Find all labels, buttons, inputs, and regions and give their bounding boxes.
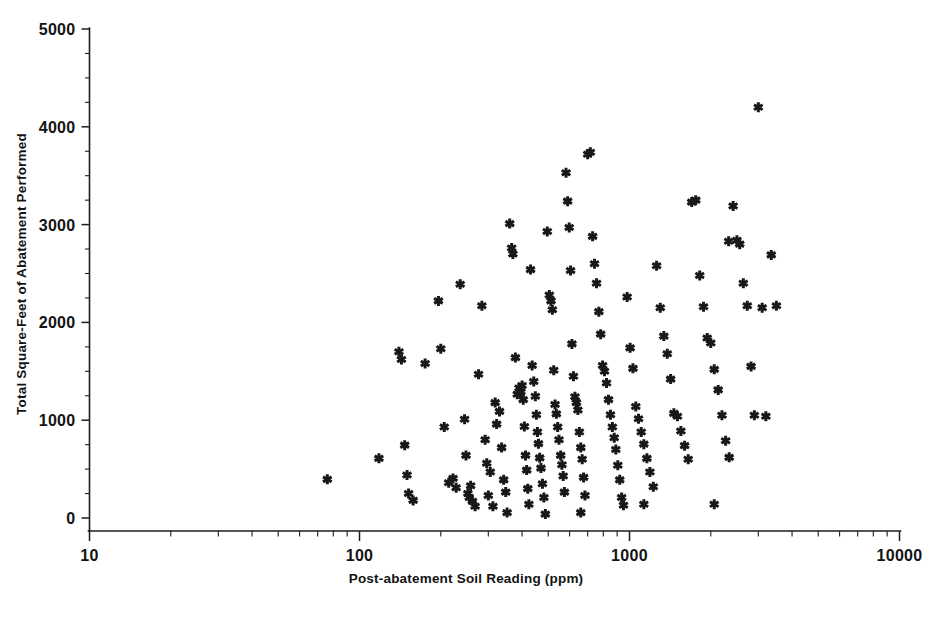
scatter-point <box>532 410 541 420</box>
scatter-point <box>710 364 719 374</box>
y-tick-label: 0 <box>66 510 75 527</box>
scatter-point <box>456 279 465 289</box>
scatter-point <box>563 196 572 206</box>
scatter-point <box>481 435 490 445</box>
scatter-point <box>540 492 549 502</box>
scatter-point <box>552 409 561 419</box>
scatter-point <box>729 201 738 211</box>
scatter-point <box>436 344 445 354</box>
scatter-point <box>499 475 508 485</box>
scatter-point <box>743 301 752 311</box>
scatter-point <box>739 278 748 288</box>
scatter-point <box>576 443 585 453</box>
scatter-point <box>718 410 727 420</box>
scatter-point <box>684 454 693 464</box>
scatter-point <box>566 266 575 276</box>
x-axis-title: Post-abatement Soil Reading (ppm) <box>349 571 584 586</box>
scatter-point <box>767 250 776 260</box>
scatter-point <box>404 489 413 499</box>
scatter-point <box>440 422 449 432</box>
x-tick-label: 100 <box>346 547 374 564</box>
scatter-point <box>486 467 495 477</box>
scatter-point <box>421 358 430 368</box>
scatter-point <box>535 453 544 463</box>
scatter-point <box>656 303 665 313</box>
scatter-point <box>631 402 640 412</box>
scatter-point <box>523 484 532 494</box>
scatter-point <box>721 436 730 446</box>
scatter-point <box>533 427 542 437</box>
scatter-point <box>495 406 504 416</box>
scatter-point <box>534 439 543 449</box>
scatter-point <box>569 371 578 381</box>
scatter-point <box>613 460 622 470</box>
scatter-point <box>615 475 624 485</box>
scatter-point <box>474 369 483 379</box>
scatter-point <box>548 305 557 315</box>
scatter-point <box>725 452 734 462</box>
scatter-point <box>659 331 668 341</box>
scatter-point <box>520 422 529 432</box>
scatter-point <box>492 419 501 429</box>
scatter-point <box>528 360 537 370</box>
scatter-point <box>525 499 534 509</box>
scatter-point <box>543 226 552 236</box>
scatter-point <box>503 508 512 518</box>
scatter-point <box>762 411 771 421</box>
scatter-point <box>581 491 590 501</box>
x-tick-label: 10 <box>80 547 98 564</box>
scatter-point <box>640 439 649 449</box>
scatter-point <box>576 508 585 518</box>
scatter-point <box>610 433 619 443</box>
scatter-point <box>409 495 418 505</box>
scatter-point <box>677 426 686 436</box>
scatter-point <box>526 265 535 275</box>
scatter-point <box>323 474 332 484</box>
scatter-point <box>596 329 605 339</box>
x-tick-label: 10000 <box>877 547 923 564</box>
scatter-point <box>558 460 567 470</box>
scatter-point <box>553 422 562 432</box>
scatter-point <box>555 435 564 445</box>
scatter-point <box>501 487 510 497</box>
scatter-point <box>637 427 646 437</box>
scatter-point <box>478 301 487 311</box>
scatter-point <box>434 296 443 306</box>
scatter-point <box>489 501 498 511</box>
y-tick-label: 1000 <box>39 412 76 429</box>
scatter-point <box>400 440 409 450</box>
scatter-point <box>375 453 384 463</box>
y-axis: 010002000300040005000 <box>39 21 90 531</box>
scatter-point <box>531 391 540 401</box>
scatter-point <box>602 378 611 388</box>
scatter-point <box>491 398 500 408</box>
scatter-point <box>462 450 471 460</box>
scatter-point <box>750 410 759 420</box>
scatter-point <box>680 441 689 451</box>
scatter-point <box>505 219 514 229</box>
scatter-point <box>606 410 615 420</box>
scatter-point <box>497 443 506 453</box>
scatter-point <box>522 465 531 475</box>
y-axis-title: Total Square-Feet of Abatement Performed <box>14 133 29 415</box>
scatter-point <box>537 463 546 473</box>
y-tick-label: 5000 <box>39 21 76 38</box>
scatter-point <box>588 231 597 241</box>
scatter-point <box>695 270 704 280</box>
scatter-point <box>578 454 587 464</box>
scatter-point <box>634 414 643 424</box>
scatter-point <box>649 482 658 492</box>
scatter-point <box>562 168 571 178</box>
y-tick-label: 3000 <box>39 217 76 234</box>
scatter-point <box>541 509 550 519</box>
scatter-point <box>595 307 604 317</box>
scatter-point <box>612 445 621 455</box>
scatter-point <box>604 395 613 405</box>
scatter-point <box>484 491 493 501</box>
x-tick-label: 1000 <box>611 547 648 564</box>
scatter-point <box>511 353 520 363</box>
scatter-point <box>482 458 491 468</box>
scatter-point <box>710 499 719 509</box>
scatter-point <box>629 363 638 373</box>
plot-canvas: 010002000300040005000 10100100010000 Pos… <box>0 0 935 627</box>
